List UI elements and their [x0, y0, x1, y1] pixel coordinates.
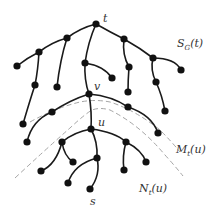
edge: [123, 142, 126, 170]
node: [37, 167, 44, 174]
node: [31, 81, 38, 88]
node: [48, 108, 55, 115]
node: [13, 62, 20, 69]
node: [120, 166, 127, 173]
region-label-arg: (t): [190, 37, 203, 50]
node-v: [85, 90, 92, 97]
node: [64, 179, 71, 186]
node: [58, 138, 65, 145]
node: [124, 88, 131, 95]
edge: [126, 142, 146, 162]
node: [35, 48, 42, 55]
node: [81, 59, 88, 66]
edge: [96, 24, 124, 39]
node: [177, 66, 184, 73]
label-t: t: [103, 12, 108, 25]
dashed-boundaries: [15, 101, 183, 179]
node: [93, 154, 100, 161]
node: [63, 34, 70, 41]
edge: [90, 158, 98, 189]
edge: [128, 107, 158, 133]
edge: [91, 129, 126, 142]
edge: [23, 85, 35, 124]
region-label-mt-u: Mt(u): [175, 143, 206, 158]
node: [19, 120, 26, 127]
node: [53, 83, 60, 90]
node: [154, 129, 161, 136]
node: [152, 78, 159, 85]
node: [124, 103, 131, 110]
node: [69, 158, 76, 165]
node: [122, 138, 129, 145]
edge: [128, 67, 129, 92]
edge: [17, 52, 39, 66]
region-label-sg-t: SG(t): [177, 37, 203, 52]
label-u: u: [98, 116, 105, 129]
edge: [35, 52, 39, 85]
node-u: [87, 125, 94, 132]
edge: [57, 38, 67, 87]
edge: [41, 142, 62, 171]
node-t: [92, 20, 99, 27]
edge: [152, 58, 156, 82]
edge: [85, 63, 89, 94]
node: [161, 107, 168, 114]
node: [125, 63, 132, 70]
region-label-arg: (u): [151, 182, 167, 195]
region-label-main: M: [175, 143, 188, 156]
region-label-nt-u: Nt(u): [138, 182, 167, 197]
edge: [153, 58, 181, 70]
node: [149, 54, 156, 61]
tree-diagram: t v u s SG(t) Mt(u) Nt(u): [0, 0, 218, 216]
node: [142, 158, 149, 165]
region-label-arg: (u): [190, 143, 206, 156]
edge: [85, 63, 112, 78]
edge: [91, 129, 97, 158]
label-v: v: [94, 80, 101, 93]
node: [108, 74, 115, 81]
edge: [52, 94, 89, 112]
tree-edges: [17, 24, 181, 189]
region-label-main: N: [138, 182, 149, 195]
edge: [124, 39, 153, 58]
node-s: [86, 185, 93, 192]
edge: [85, 24, 96, 63]
edge: [62, 129, 91, 142]
node: [23, 138, 30, 145]
edge: [124, 39, 129, 67]
label-s: s: [90, 195, 96, 208]
edge: [156, 82, 165, 111]
tree-nodes: [13, 20, 184, 192]
node: [120, 35, 127, 42]
